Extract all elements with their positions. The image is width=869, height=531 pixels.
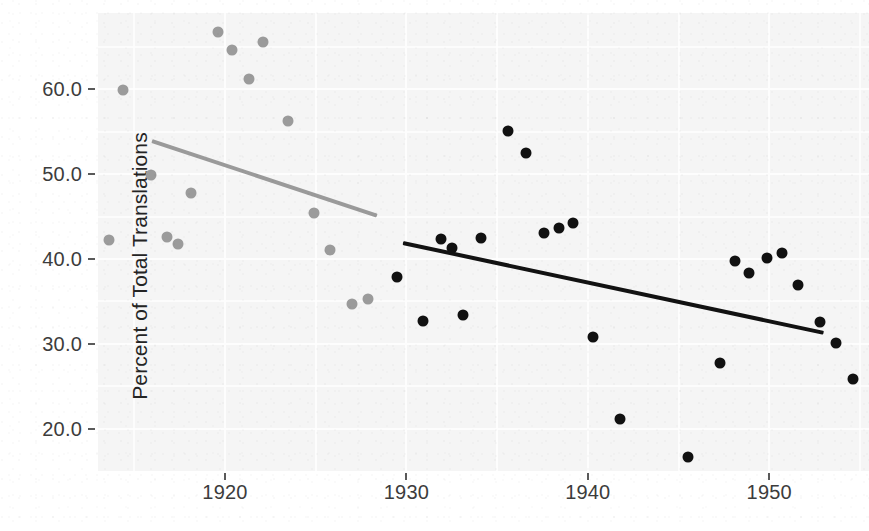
data-point xyxy=(588,331,599,342)
data-point xyxy=(118,85,129,96)
data-point xyxy=(325,244,336,255)
data-point xyxy=(847,373,858,384)
data-point xyxy=(729,255,740,266)
x-axis-tick-mark xyxy=(587,473,589,480)
y-axis-tick-label: 60.0 xyxy=(42,78,82,101)
y-axis-tick-label: 20.0 xyxy=(42,417,82,440)
data-point xyxy=(346,298,357,309)
data-point xyxy=(715,358,726,369)
gridline-horizontal-minor xyxy=(98,300,869,302)
gridline-horizontal xyxy=(98,173,869,175)
data-point xyxy=(682,452,693,463)
y-axis-tick-label: 30.0 xyxy=(42,332,82,355)
data-point xyxy=(615,414,626,425)
data-point xyxy=(212,26,223,37)
plot-panel xyxy=(98,13,869,471)
data-point xyxy=(103,235,114,246)
gridline-horizontal xyxy=(98,88,869,90)
x-axis-tick-label: 1930 xyxy=(384,481,429,504)
data-point xyxy=(185,187,196,198)
gridline-vertical-minor xyxy=(496,13,498,471)
y-axis-tick-label: 50.0 xyxy=(42,163,82,186)
data-point xyxy=(227,45,238,56)
data-point xyxy=(172,238,183,249)
data-point xyxy=(457,309,468,320)
gridline-vertical xyxy=(768,13,770,471)
y-axis-tick-mark xyxy=(88,173,95,175)
data-point xyxy=(145,169,156,180)
y-axis-tick-mark xyxy=(88,88,95,90)
data-point xyxy=(258,36,269,47)
trendline-early xyxy=(152,139,378,217)
data-point xyxy=(243,74,254,85)
data-point xyxy=(435,234,446,245)
data-point xyxy=(776,248,787,259)
data-point xyxy=(539,227,550,238)
data-point xyxy=(502,125,513,136)
data-point xyxy=(161,231,172,242)
y-axis-tick-labels: 20.030.040.050.060.0 xyxy=(0,0,82,531)
x-axis-tick-label: 1920 xyxy=(202,481,247,504)
trendline-late xyxy=(402,241,824,335)
y-axis-tick-mark xyxy=(88,343,95,345)
y-axis-tick-mark xyxy=(88,258,95,260)
x-axis-tick-mark xyxy=(405,473,407,480)
data-point xyxy=(568,218,579,229)
data-point xyxy=(744,268,755,279)
data-point xyxy=(521,147,532,158)
x-axis-tick-mark xyxy=(224,473,226,480)
data-point xyxy=(553,222,564,233)
y-axis-tick-label: 40.0 xyxy=(42,247,82,270)
gridline-vertical-minor xyxy=(678,13,680,471)
gridline-horizontal-minor xyxy=(98,46,869,48)
x-axis-tick-mark xyxy=(768,473,770,480)
gridline-vertical xyxy=(224,13,226,471)
gridline-vertical xyxy=(587,13,589,471)
gridline-vertical-minor xyxy=(315,13,317,471)
gridline-horizontal-minor xyxy=(98,385,869,387)
data-point xyxy=(308,208,319,219)
data-point xyxy=(762,253,773,264)
data-point xyxy=(793,280,804,291)
x-axis-tick-label: 1950 xyxy=(747,481,792,504)
x-axis-tick-label: 1940 xyxy=(565,481,610,504)
data-point xyxy=(417,315,428,326)
gridline-horizontal-minor xyxy=(98,216,869,218)
gridline-horizontal-minor xyxy=(98,131,869,133)
data-point xyxy=(831,337,842,348)
chart-figure: 20.030.040.050.060.0 Percent of Total Tr… xyxy=(0,0,869,531)
y-axis-tick-mark xyxy=(88,428,95,430)
data-point xyxy=(392,271,403,282)
gridline-vertical-minor xyxy=(859,13,861,471)
gridline-horizontal xyxy=(98,343,869,345)
data-point xyxy=(475,232,486,243)
data-point xyxy=(815,316,826,327)
data-point xyxy=(363,293,374,304)
gridline-horizontal xyxy=(98,428,869,430)
data-point xyxy=(283,115,294,126)
